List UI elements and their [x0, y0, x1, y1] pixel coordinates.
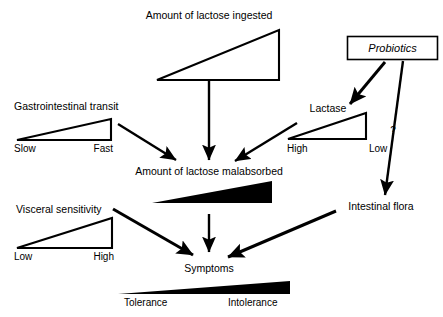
edge-transit-to-malabsorbed [118, 124, 176, 160]
label-lactase: Lactase [310, 102, 347, 114]
label-transit-fast: Fast [94, 143, 114, 154]
label-lactase-low: Low [369, 143, 388, 154]
label-intestinal-flora: Intestinal flora [348, 200, 414, 212]
triangle-visceral-sensitivity [17, 218, 112, 248]
label-lactase-high: High [287, 143, 308, 154]
label-lactose-ingested: Amount of lactose ingested [146, 9, 273, 21]
triangle-tolerance-gradient [118, 281, 290, 294]
label-probiotics: Probiotics [368, 42, 417, 54]
diagram-canvas: Amount of lactose ingested Probiotics Ga… [0, 0, 443, 317]
label-tolerance: Tolerance [124, 297, 168, 308]
label-transit-slow: Slow [14, 143, 36, 154]
label-symptoms: Symptoms [184, 262, 234, 274]
label-lactose-malabsorbed: Amount of lactose malabsorbed [135, 165, 283, 177]
edge-probiotics-to-lactase [350, 62, 385, 104]
edge-visceral-to-symptoms [113, 209, 193, 255]
triangle-lactase [288, 113, 366, 139]
label-intolerance: Intolerance [228, 297, 278, 308]
triangle-gi-transit [17, 119, 111, 140]
label-visceral-low: Low [14, 251, 33, 262]
triangle-lactose-ingested [157, 30, 279, 80]
label-visceral-high: High [93, 251, 114, 262]
edge-lactase-to-malabsorbed [235, 123, 297, 161]
label-uncertain-edge: ? [390, 125, 396, 136]
label-visceral-sensitivity: Visceral sensitivity [16, 203, 102, 215]
edge-flora-to-symptoms [228, 211, 336, 257]
diagram-root: Amount of lactose ingested Probiotics Ga… [0, 0, 443, 317]
triangle-lactose-malabsorbed [152, 181, 272, 203]
label-gastrointestinal-transit: Gastrointestinal transit [14, 100, 119, 112]
